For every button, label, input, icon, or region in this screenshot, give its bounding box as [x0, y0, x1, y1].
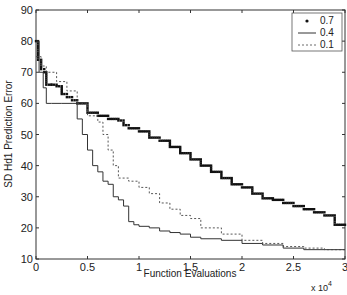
y-tick-label: 40: [21, 160, 33, 172]
y-tick-label: 70: [21, 66, 33, 78]
y-tick-label: 30: [21, 191, 33, 203]
x-multiplier-exponent: 4: [328, 280, 332, 287]
y-tick-label: 10: [21, 253, 33, 265]
y-tick-label: 90: [21, 4, 33, 16]
x-tick-label: 2: [239, 261, 245, 273]
line-chart: 102030405060708090 00.511.522.53 SD Hd1 …: [0, 0, 347, 295]
y-tick-label: 80: [21, 35, 33, 47]
x-tick-label: 3: [342, 261, 347, 273]
x-axis-label: Function Evaluations: [144, 268, 237, 279]
x-multiplier: x 104: [311, 280, 332, 293]
x-tick-label: 2.5: [286, 261, 301, 273]
legend-label-0-1: 0.1: [320, 39, 334, 50]
y-tick-label: 20: [21, 222, 33, 234]
x-tick-label: 0.5: [80, 261, 95, 273]
y-tick-label: 60: [21, 97, 33, 109]
legend: 0.7 0.4 0.1: [292, 13, 342, 51]
y-axis-label: SD Hd1 Prediction Error: [3, 80, 14, 188]
x-tick-label: 0: [33, 261, 39, 273]
legend-label-0-7: 0.7: [320, 15, 334, 26]
legend-dots-icon: [305, 19, 308, 22]
y-tick-label: 50: [21, 129, 33, 141]
x-tick-label: 1: [136, 261, 142, 273]
legend-label-0-4: 0.4: [320, 27, 334, 38]
